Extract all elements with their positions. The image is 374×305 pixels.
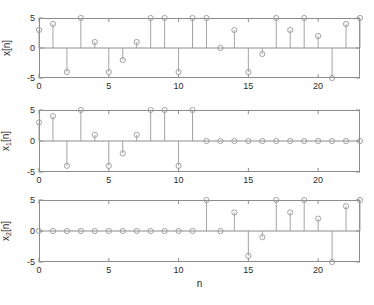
stem-plot-x2 xyxy=(39,200,360,262)
ylabel-x2: x2[n] xyxy=(0,221,12,241)
xtick-label: 15 xyxy=(243,81,253,91)
ylabel-x: x[n] xyxy=(1,40,12,56)
xtick-label: 0 xyxy=(36,81,41,91)
xtick-label: 20 xyxy=(313,81,323,91)
xtick-label: 15 xyxy=(243,265,253,275)
subplot-x2: x2[n] n -50505101520 xyxy=(39,200,360,262)
matlab-figure: x[n] -50505101520 x1[n] -50505101520 x2[… xyxy=(0,0,374,305)
ylabel-x1: x1[n] xyxy=(0,131,12,151)
ytick-label: 5 xyxy=(30,13,35,23)
xtick-label: 15 xyxy=(243,175,253,185)
xlabel-n: n xyxy=(197,278,203,289)
ytick-label: -5 xyxy=(27,257,35,267)
stem-plot-x1 xyxy=(39,110,360,172)
xtick-label: 5 xyxy=(106,81,111,91)
xtick-label: 10 xyxy=(174,265,184,275)
ytick-label: 0 xyxy=(30,136,35,146)
xtick-label: 0 xyxy=(36,175,41,185)
subplot-x: x[n] -50505101520 xyxy=(39,18,360,78)
ytick-label: -5 xyxy=(27,167,35,177)
ytick-label: -5 xyxy=(27,73,35,83)
ytick-label: 0 xyxy=(30,226,35,236)
ytick-label: 5 xyxy=(30,195,35,205)
ytick-label: 0 xyxy=(30,43,35,53)
xtick-label: 10 xyxy=(174,175,184,185)
ytick-label: 5 xyxy=(30,105,35,115)
xtick-label: 5 xyxy=(106,265,111,275)
subplot-x1: x1[n] -50505101520 xyxy=(39,110,360,172)
stem-plot-x xyxy=(39,18,360,78)
xtick-label: 5 xyxy=(106,175,111,185)
xtick-label: 20 xyxy=(313,265,323,275)
xtick-label: 20 xyxy=(313,175,323,185)
xtick-label: 0 xyxy=(36,265,41,275)
xtick-label: 10 xyxy=(174,81,184,91)
